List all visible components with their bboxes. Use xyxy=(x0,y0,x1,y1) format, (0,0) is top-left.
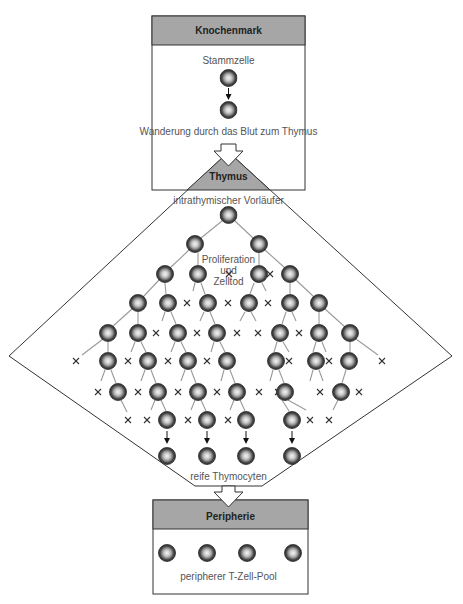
peripheral-cell-icon xyxy=(159,545,176,562)
cell-icon xyxy=(272,325,289,342)
cell-icon xyxy=(333,384,350,401)
cell-icon xyxy=(251,236,268,253)
cell-icon xyxy=(140,353,157,370)
cell-icon xyxy=(342,325,359,342)
cell-icon xyxy=(219,353,236,370)
peripheral-cell-icon xyxy=(199,545,216,562)
stem-cell-label: Stammzelle xyxy=(202,55,255,66)
cell-icon xyxy=(159,412,176,429)
mature-cell-icon xyxy=(238,448,255,465)
precursor-cell-icon xyxy=(220,207,237,224)
cell-icon xyxy=(200,295,217,312)
peripheral-cell-icon xyxy=(285,545,302,562)
thymocyte-development-diagram: Knochenmark Stammzelle Wanderung durch d… xyxy=(0,0,463,604)
cell-icon xyxy=(110,384,127,401)
mature-cell-icon xyxy=(284,448,301,465)
cell-icon xyxy=(241,295,258,312)
peripheral-cell-icon xyxy=(239,545,256,562)
cell-icon xyxy=(251,266,268,283)
mature-label: reife Thymocyten xyxy=(190,471,267,482)
cell-icon xyxy=(341,353,358,370)
cell-icon xyxy=(311,325,328,342)
cell-icon xyxy=(100,353,117,370)
proliferation-label-zelltod: Zelltod xyxy=(213,276,243,287)
stem-cell-daughter-icon xyxy=(220,102,237,119)
cell-icon xyxy=(190,384,207,401)
cell-icon xyxy=(100,325,117,342)
periphery-title: Peripherie xyxy=(206,511,255,522)
cell-icon xyxy=(209,325,226,342)
cell-icon xyxy=(277,384,294,401)
cell-icon xyxy=(157,266,174,283)
thymus-section: Thymus intrathymischer Vorläufer Prolife… xyxy=(9,144,452,486)
cell-icon xyxy=(282,266,299,283)
precursor-label: intrathymischer Vorläufer xyxy=(173,195,284,206)
cell-icon xyxy=(130,295,147,312)
cell-icon xyxy=(229,384,246,401)
proliferation-label: Proliferation xyxy=(202,254,255,265)
cell-icon xyxy=(170,325,187,342)
cell-icon xyxy=(311,295,328,312)
cell-icon xyxy=(190,266,207,283)
cell-icon xyxy=(180,353,197,370)
migration-label: Wanderung durch das Blut zum Thymus xyxy=(140,126,318,137)
mature-cell-icon xyxy=(199,448,216,465)
bone-marrow-title: Knochenmark xyxy=(195,25,262,36)
cell-icon xyxy=(150,384,167,401)
stem-cell-icon xyxy=(220,70,237,87)
thymus-title: Thymus xyxy=(209,171,248,182)
cell-icon xyxy=(284,412,301,429)
cell-icon xyxy=(282,295,299,312)
cell-icon xyxy=(160,295,177,312)
pool-label: peripherer T-Zell-Pool xyxy=(180,571,277,582)
cell-icon xyxy=(130,325,147,342)
cell-icon xyxy=(268,353,285,370)
cell-icon xyxy=(238,412,255,429)
mature-cell-icon xyxy=(159,448,176,465)
periphery-section: Peripherie peripherer T-Zell-Pool xyxy=(153,486,308,594)
cell-icon xyxy=(199,412,216,429)
cell-icon xyxy=(187,236,204,253)
cell-icon xyxy=(308,353,325,370)
